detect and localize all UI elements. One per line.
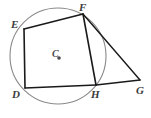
vertex-label-g: G	[136, 84, 144, 96]
center-label-c: C	[52, 48, 59, 59]
segment-de	[24, 29, 25, 88]
segment-hd	[25, 85, 96, 88]
geometry-canvas: E F D H G C	[0, 0, 151, 118]
segment-hg	[96, 80, 140, 85]
vertex-label-e: E	[10, 18, 18, 30]
vertex-label-f: F	[78, 1, 87, 13]
geometry-figure: E F D H G C	[0, 0, 151, 118]
vertex-label-h: H	[90, 88, 100, 100]
segment-ef	[24, 14, 83, 29]
vertex-label-d: D	[11, 88, 20, 100]
segment-fg	[83, 14, 140, 80]
